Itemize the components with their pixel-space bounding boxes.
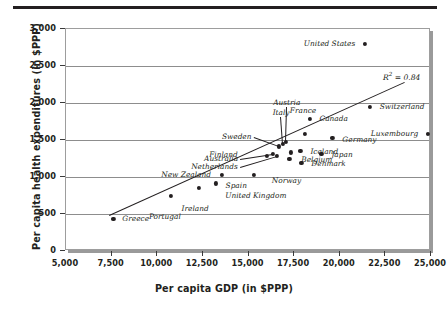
y-axis-tick xyxy=(60,139,65,140)
x-axis-tick xyxy=(248,251,249,256)
data-point-label: Netherlands xyxy=(191,163,238,170)
x-axis-tick xyxy=(293,251,294,256)
x-axis-tick xyxy=(384,251,385,256)
gridline-y xyxy=(66,177,429,178)
y-axis-tick-label: 2,000 xyxy=(0,97,56,107)
y-axis-tick xyxy=(60,102,65,103)
x-axis-tick xyxy=(202,251,203,256)
data-point-label: Switzerland xyxy=(380,103,425,110)
gridline-y xyxy=(66,214,429,215)
data-point-label: Luxembourg xyxy=(371,130,418,137)
data-point-label: Denmark xyxy=(311,160,346,167)
gridline-y xyxy=(66,103,429,104)
chart-figure: 05001,0001,5002,0002,5003,000 5,0007,500… xyxy=(0,0,448,315)
data-point-label: Portugal xyxy=(149,213,181,220)
y-axis-tick-label: 500 xyxy=(0,208,56,218)
x-axis-tick xyxy=(339,251,340,256)
y-axis-tick xyxy=(60,213,65,214)
data-point-label: Japan xyxy=(331,151,352,158)
x-axis-tick-label: 25,000 xyxy=(400,258,448,268)
data-point-label: Ireland xyxy=(182,205,209,212)
data-point-label: Spain xyxy=(226,183,247,190)
gridline-y xyxy=(66,66,429,67)
y-axis-tick xyxy=(60,176,65,177)
data-point-label: Canada xyxy=(320,115,348,122)
y-axis-tick-label: 2,500 xyxy=(0,60,56,70)
x-axis-tick xyxy=(156,251,157,256)
y-axis-tick-label: 1,500 xyxy=(0,134,56,144)
top-rule-divider xyxy=(13,6,437,9)
data-point-label: Sweden xyxy=(222,134,252,141)
y-axis-tick-label: 1,000 xyxy=(0,171,56,181)
r-squared-annotation: R2 = 0.84 xyxy=(383,71,420,82)
data-point-label: New Zealand xyxy=(161,171,211,178)
y-axis-title: Per capita health expenditures (in $PPP) xyxy=(31,17,42,257)
data-point-label: France xyxy=(290,107,316,114)
data-point-label: Italy xyxy=(273,109,290,116)
y-axis-tick xyxy=(60,28,65,29)
x-axis-tick xyxy=(111,251,112,256)
y-axis-tick xyxy=(60,65,65,66)
data-point-label: Norway xyxy=(272,177,301,184)
data-point-label: United States xyxy=(304,41,355,48)
x-axis-title: Per capita GDP (in $PPP) xyxy=(0,283,448,294)
data-point-label: Greece xyxy=(122,215,149,222)
y-axis-tick-label: 3,000 xyxy=(0,23,56,33)
x-axis-tick xyxy=(430,251,431,256)
y-axis-tick xyxy=(60,250,65,251)
y-axis-tick-label: 0 xyxy=(0,245,56,255)
data-point-label: United Kingdom xyxy=(225,193,286,200)
